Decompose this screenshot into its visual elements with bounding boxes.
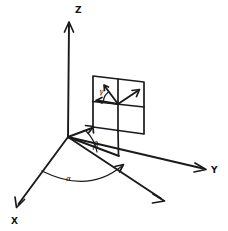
- scattering-vector-line: [118, 91, 138, 104]
- axis-label-x: X: [11, 216, 18, 226]
- gamma-angle-arc: [104, 92, 109, 101]
- axis-x-line: [19, 137, 69, 204]
- axis-z: [65, 22, 74, 137]
- axis-label-z: Z: [75, 5, 82, 15]
- figure-root: Z Y X α β γ: [0, 0, 228, 231]
- axis-y-line: [68, 137, 203, 169]
- scattering-vector: [118, 90, 140, 105]
- angle-label-gamma: γ: [99, 87, 104, 96]
- axis-x: [15, 137, 68, 208]
- projection-ray-line: [68, 137, 161, 199]
- axis-y: [68, 137, 206, 172]
- angle-label-alpha: α: [66, 174, 71, 183]
- axis-label-y: Y: [210, 165, 218, 175]
- coordinate-diagram: Z Y X α β γ: [0, 0, 228, 231]
- axis-z-line: [68, 24, 69, 137]
- panel-right-drop-line: [118, 131, 119, 155]
- angle-label-beta: β: [92, 140, 98, 150]
- alpha-angle-arc: [42, 166, 122, 181]
- projection-ray-arrowhead: [153, 194, 165, 203]
- detector-plane: [93, 76, 144, 134]
